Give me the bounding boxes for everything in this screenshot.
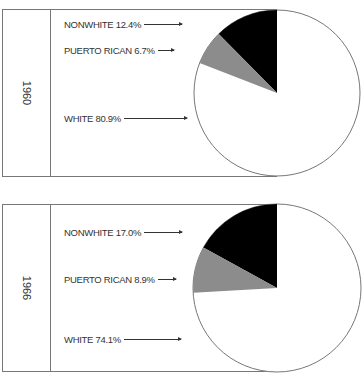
pie-chart-1966 [0, 0, 362, 379]
